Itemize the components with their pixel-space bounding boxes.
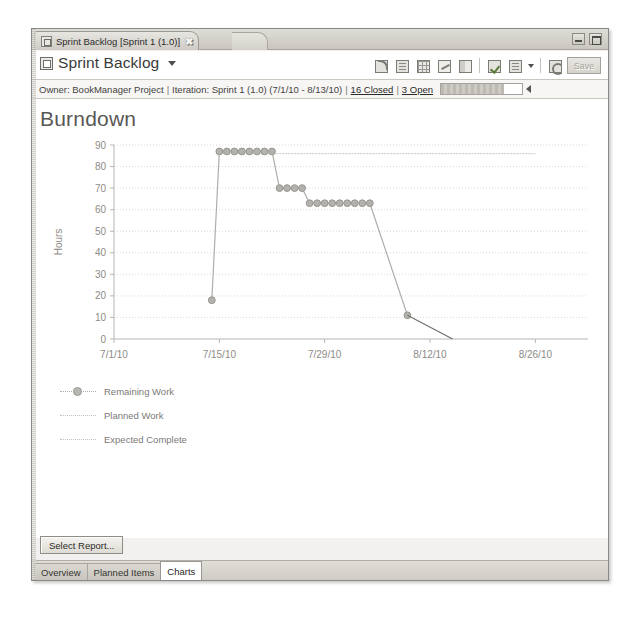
svg-text:8/12/10: 8/12/10 — [413, 349, 447, 360]
chart-legend: Remaining Work Planned Work Expected Com… — [60, 379, 187, 451]
window-titlebar: Sprint Backlog [Sprint 1 (1.0)] ✖ — [32, 29, 608, 50]
rss-feed-icon[interactable] — [372, 57, 390, 75]
editor-tab-icon — [41, 36, 52, 47]
document-icon[interactable] — [393, 57, 411, 75]
progress-bar — [440, 83, 523, 95]
page-tabs: OverviewPlanned ItemsCharts — [32, 560, 608, 580]
svg-text:90: 90 — [95, 140, 107, 151]
tab-strip-tail — [232, 32, 268, 50]
chart-title: Burndown — [40, 107, 136, 131]
page-tab-charts[interactable]: Charts — [160, 561, 202, 580]
svg-text:80: 80 — [95, 161, 107, 172]
svg-text:50: 50 — [95, 226, 107, 237]
toolbar-divider — [479, 58, 480, 73]
legend-item: Expected Complete — [60, 427, 187, 451]
minimize-button[interactable] — [572, 33, 585, 45]
svg-text:30: 30 — [95, 269, 107, 280]
legend-item: Planned Work — [60, 403, 187, 427]
table-grid-icon[interactable] — [414, 57, 432, 75]
iteration-info-bar: Owner: BookManager Project | Iteration: … — [32, 80, 608, 99]
form-header: Sprint Backlog Save — [32, 51, 608, 80]
link-icon[interactable] — [435, 57, 453, 75]
maximize-button[interactable] — [589, 33, 602, 45]
svg-text:40: 40 — [95, 247, 107, 258]
legend-swatch-expected-complete — [60, 435, 96, 444]
new-document-icon[interactable] — [506, 57, 524, 75]
legend-swatch-planned-work — [60, 411, 96, 420]
progress-bar-fill — [441, 84, 504, 94]
legend-item: Remaining Work — [60, 379, 187, 403]
legend-swatch-remaining-work — [60, 387, 96, 396]
svg-text:10: 10 — [95, 312, 107, 323]
owner-value: BookManager Project — [72, 84, 163, 95]
legend-label: Expected Complete — [104, 434, 187, 445]
svg-text:0: 0 — [100, 334, 106, 345]
svg-text:7/1/10: 7/1/10 — [100, 349, 128, 360]
svg-text:60: 60 — [95, 204, 107, 215]
form-title-group: Sprint Backlog — [40, 54, 176, 72]
svg-text:20: 20 — [95, 290, 107, 301]
toolbar-divider — [540, 58, 541, 73]
iteration-value: Sprint 1 (1.0) (7/1/10 - 8/13/10) — [212, 84, 342, 95]
expand-info-icon[interactable] — [526, 85, 531, 93]
charts-page: Burndown 0102030405060708090Hours7/1/107… — [32, 99, 608, 538]
form-toolbar: Save — [372, 55, 601, 76]
legend-label: Planned Work — [104, 410, 164, 421]
edit-checklist-icon[interactable] — [485, 57, 503, 75]
info-separator: | — [164, 84, 172, 95]
close-icon[interactable]: ✖ — [183, 36, 194, 47]
editor-tab-sprint-backlog[interactable]: Sprint Backlog [Sprint 1 (1.0)] ✖ — [34, 31, 199, 50]
sprint-backlog-window: Sprint Backlog [Sprint 1 (1.0)] ✖ Sprint… — [31, 28, 609, 581]
burndown-chart: 0102030405060708090Hours7/1/107/15/107/2… — [32, 137, 608, 377]
sprint-backlog-icon — [40, 57, 53, 70]
page-tab-planned-items[interactable]: Planned Items — [87, 563, 162, 580]
select-report-button[interactable]: Select Report... — [40, 536, 123, 554]
collapse-panel-icon[interactable] — [456, 57, 474, 75]
page-tab-overview[interactable]: Overview — [34, 563, 88, 580]
chevron-down-icon[interactable] — [528, 64, 534, 68]
refresh-icon[interactable] — [546, 57, 564, 75]
legend-label: Remaining Work — [104, 386, 174, 397]
svg-text:7/29/10: 7/29/10 — [308, 349, 342, 360]
svg-text:8/26/10: 8/26/10 — [519, 349, 553, 360]
svg-text:Hours: Hours — [53, 229, 64, 256]
open-items-link[interactable]: 3 Open — [402, 84, 433, 95]
info-separator: | — [342, 84, 350, 95]
save-button[interactable]: Save — [567, 57, 601, 74]
svg-text:70: 70 — [95, 183, 107, 194]
svg-text:7/15/10: 7/15/10 — [203, 349, 237, 360]
iteration-label: Iteration: — [172, 84, 209, 95]
closed-items-link[interactable]: 16 Closed — [351, 84, 394, 95]
page-title: Sprint Backlog — [58, 54, 159, 72]
chevron-down-icon[interactable] — [168, 61, 176, 66]
editor-tab-label: Sprint Backlog [Sprint 1 (1.0)] — [56, 36, 180, 47]
owner-label: Owner: — [39, 84, 70, 95]
info-separator: | — [393, 84, 401, 95]
